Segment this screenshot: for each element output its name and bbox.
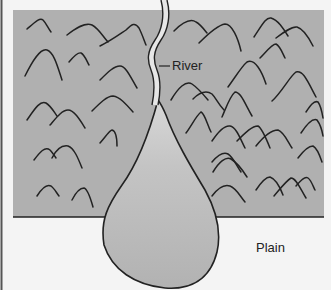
alluvial-fan-diagram: River Plain <box>0 0 331 290</box>
plain-label: Plain <box>256 240 285 255</box>
river-label: River <box>172 58 203 73</box>
